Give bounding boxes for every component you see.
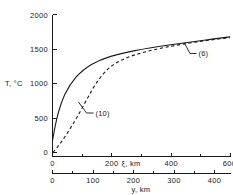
y-km-tick-label-100: 100 bbox=[86, 176, 99, 185]
chart-plot-area: 0 500 1000 1500 2000 T, °C (6) (10) 0 20… bbox=[0, 0, 233, 195]
y-km-tick-label-0: 0 bbox=[50, 176, 54, 185]
curve-label-10: (10) bbox=[96, 109, 110, 118]
y-km-tick-label-300: 300 bbox=[167, 176, 180, 185]
y-km-tick-label-400: 400 bbox=[208, 176, 221, 185]
y-axis-title: T, °C bbox=[5, 79, 23, 88]
y-tick-label-500: 500 bbox=[35, 114, 48, 123]
chart-figure: 0 500 1000 1500 2000 T, °C (6) (10) 0 20… bbox=[0, 0, 233, 195]
x-axis-primary-ticks bbox=[53, 153, 231, 157]
curve-label-6: (6) bbox=[199, 49, 209, 58]
x-axis-title-primary: ξ, km bbox=[121, 159, 140, 168]
x-tick-label-200: 200 bbox=[105, 159, 118, 168]
x-axis-secondary-ticks bbox=[53, 170, 215, 174]
y-tick-label-2000: 2000 bbox=[30, 11, 48, 20]
y-tick-label-0: 0 bbox=[44, 148, 48, 157]
y-km-tick-label-200: 200 bbox=[127, 176, 140, 185]
x-tick-label-0: 0 bbox=[50, 159, 54, 168]
curve-6-leader-line bbox=[185, 43, 197, 53]
y-tick-label-1500: 1500 bbox=[30, 45, 48, 54]
x-axis-title-secondary: y, km bbox=[132, 185, 151, 194]
y-tick-label-1000: 1000 bbox=[30, 79, 48, 88]
x-tick-label-600: 600 bbox=[223, 159, 233, 168]
x-tick-label-400: 400 bbox=[164, 159, 177, 168]
